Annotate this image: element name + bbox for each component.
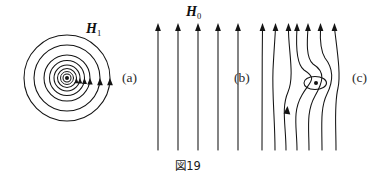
panel-b-arrowheads — [155, 23, 241, 31]
uniform-arrowhead-2 — [175, 23, 181, 31]
figure-caption: 図19 — [175, 159, 201, 173]
circulation-arrowhead-1 — [107, 78, 113, 85]
panel-b-group: H0 (b) — [155, 4, 250, 150]
uniform-arrowhead-4 — [215, 23, 221, 31]
panel-c-group: (c) — [260, 23, 367, 150]
distorted-field-line-6 — [320, 28, 331, 150]
panel-a-label: (a) — [122, 70, 137, 85]
panel-b-field-lines — [158, 28, 238, 150]
circulation-arrowhead-3 — [87, 78, 92, 85]
distorted-arrowhead-5 — [305, 23, 311, 31]
panel-b-label: (b) — [234, 70, 250, 85]
current-out-dot-icon — [65, 76, 69, 80]
vortex-current-out-dot-icon — [314, 81, 318, 85]
distorted-arrowhead-1 — [260, 23, 266, 31]
panel-c-label: (c) — [352, 70, 367, 85]
uniform-arrowhead-1 — [155, 23, 161, 31]
panel-a-circulation-arrowheads — [74, 78, 113, 85]
panel-a-field-label: H1 — [85, 21, 101, 38]
circulation-arrowhead-4 — [82, 78, 87, 84]
distorted-field-line-1 — [262, 28, 263, 150]
distorted-arrowhead-6 — [318, 23, 324, 31]
distorted-arrowhead-7 — [332, 23, 338, 31]
panel-b-field-label: H0 — [185, 4, 201, 21]
panel-c-vortex — [304, 77, 327, 90]
distorted-field-line-3 — [284, 28, 291, 150]
distorted-arrowhead-2 — [273, 23, 279, 31]
distorted-arrowhead-3 — [286, 23, 292, 31]
circulation-arrowhead-2 — [97, 78, 103, 85]
uniform-arrowhead-5 — [235, 23, 241, 31]
uniform-arrowhead-3 — [195, 23, 201, 31]
distorted-field-line-7 — [335, 28, 340, 150]
circulation-arrowhead-6 — [74, 78, 78, 83]
distorted-field-line-2 — [273, 28, 276, 150]
distorted-arrowhead-4 — [294, 23, 300, 31]
figure-svg-canvas: H1 (a) H0 (b) — [0, 0, 377, 177]
panel-a-current-source — [63, 74, 71, 82]
panel-c-arrowheads — [260, 23, 338, 114]
figure-19-container: H1 (a) H0 (b) — [0, 0, 377, 177]
panel-c-field-lines — [262, 28, 339, 150]
panel-a-group: H1 (a) — [24, 21, 137, 121]
